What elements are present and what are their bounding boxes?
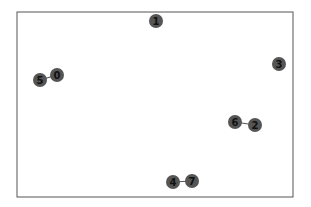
node-1: 1 xyxy=(149,14,163,28)
node-0: 0 xyxy=(50,68,64,82)
node-label: 3 xyxy=(276,59,283,70)
node-label: 1 xyxy=(153,16,160,27)
plot-frame xyxy=(17,12,293,197)
node-2: 2 xyxy=(248,118,262,132)
node-label: 4 xyxy=(170,177,177,188)
node-6: 6 xyxy=(228,115,242,129)
node-5: 5 xyxy=(33,73,47,87)
node-3: 3 xyxy=(272,57,286,71)
node-label: 7 xyxy=(189,176,196,187)
node-label: 2 xyxy=(252,120,259,131)
node-label: 6 xyxy=(232,117,239,128)
node-label: 5 xyxy=(37,75,44,86)
network-graph: 01234567 xyxy=(0,0,311,207)
node-7: 7 xyxy=(185,174,199,188)
node-label: 0 xyxy=(54,70,61,81)
node-4: 4 xyxy=(166,175,180,189)
